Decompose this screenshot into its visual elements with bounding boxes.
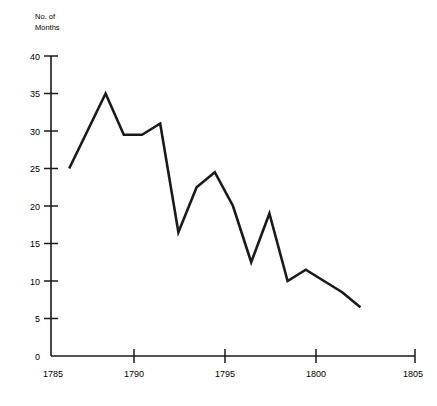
y-tick-label-10: 10 xyxy=(30,277,40,287)
x-tick-label-1800: 1800 xyxy=(306,369,326,379)
line-chart: No. of Months 40 35 30 25 20 15 10 5 0 xyxy=(0,0,437,406)
y-tick-label-5: 5 xyxy=(35,314,40,324)
x-tick-label-1795: 1795 xyxy=(215,369,235,379)
y-axis-title-line1: No. of xyxy=(35,12,56,21)
y-axis-title-line2: Months xyxy=(35,23,60,32)
y-tick-label-20: 20 xyxy=(30,202,40,212)
chart-background xyxy=(0,0,437,406)
y-tick-label-30: 30 xyxy=(30,127,40,137)
y-tick-label-35: 35 xyxy=(30,89,40,99)
x-tick-label-1785: 1785 xyxy=(43,369,63,379)
chart-canvas: No. of Months 40 35 30 25 20 15 10 5 0 xyxy=(0,0,437,406)
x-tick-label-1805: 1805 xyxy=(403,369,423,379)
x-tick-label-1790: 1790 xyxy=(124,369,144,379)
y-tick-label-0: 0 xyxy=(35,352,40,362)
y-tick-label-40: 40 xyxy=(30,52,40,62)
y-tick-label-25: 25 xyxy=(30,164,40,174)
y-tick-label-15: 15 xyxy=(30,239,40,249)
